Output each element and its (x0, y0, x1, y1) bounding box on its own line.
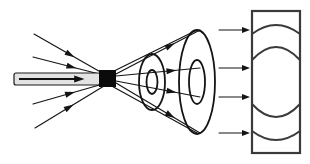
probe-group (14, 73, 100, 85)
optical-ray-diagram (0, 0, 310, 164)
point-source-block (99, 70, 116, 87)
diagram-canvas (0, 0, 310, 164)
